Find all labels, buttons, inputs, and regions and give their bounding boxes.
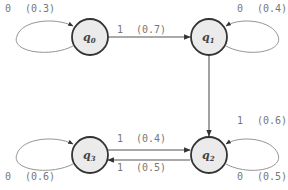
label-q3-q2-symbol: 1	[117, 133, 123, 144]
node-q1: q1	[191, 19, 227, 55]
node-q3: q3	[72, 137, 108, 173]
label-q3-loop-symbol: 0	[5, 171, 11, 182]
label-q2-loop0-symbol: 0	[237, 171, 243, 182]
loop-q2	[226, 139, 279, 170]
label-q0-loop-symbol: 0	[5, 3, 11, 14]
loop-q1	[226, 21, 279, 52]
label-q2-q3-prob: (0.5)	[136, 162, 166, 173]
node-q0: q0	[72, 19, 108, 55]
label-q3-loop-prob: (0.6)	[25, 171, 55, 182]
label-q1-loop-prob: (0.4)	[257, 3, 287, 14]
label-q2-loop0-prob: (0.5)	[257, 171, 287, 182]
node-q2: q2	[191, 137, 227, 173]
loop-q0	[16, 21, 73, 52]
loop-q3	[16, 139, 73, 170]
label-q3-q2-prob: (0.4)	[136, 133, 166, 144]
label-q0-loop-prob: (0.3)	[25, 3, 55, 14]
label-q0-q1-prob: (0.7)	[136, 24, 166, 35]
state-diagram: q0 q1 q3 q2 0 (0.3) 1 (0.7) 0 (0.4) 1 (0…	[0, 0, 288, 190]
label-q1-loop-symbol: 0	[237, 3, 243, 14]
label-q2-loop1-prob: (0.6)	[257, 115, 287, 126]
label-q0-q1-symbol: 1	[117, 24, 123, 35]
label-q2-loop1-symbol: 1	[237, 115, 243, 126]
label-q2-q3-symbol: 1	[117, 162, 123, 173]
